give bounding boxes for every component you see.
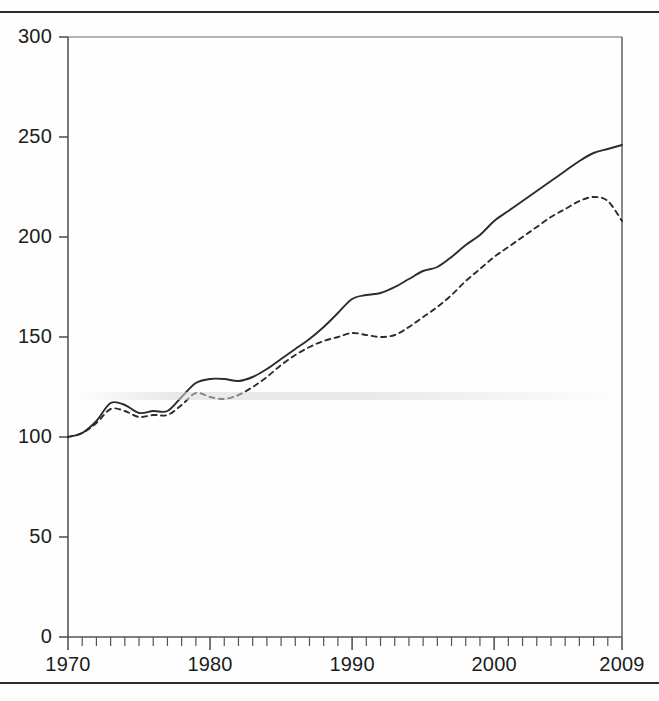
- y-axis-tick-label: 150: [0, 326, 52, 346]
- x-axis-tick-label: 1990: [312, 654, 392, 674]
- axes-group: [68, 37, 622, 637]
- bottom-horizontal-rule: [0, 682, 659, 684]
- chart-plot-area: [0, 0, 659, 701]
- data-series-solid: [68, 145, 622, 437]
- y-axis-tick-label: 0: [0, 626, 52, 646]
- y-axis-tick-label: 200: [0, 226, 52, 246]
- y-axis-ticks: [59, 37, 68, 637]
- x-axis-tick-label: 2000: [454, 654, 534, 674]
- y-axis-tick-label: 250: [0, 126, 52, 146]
- figure-container: 050100150200250300 19701980199020002009: [0, 0, 659, 701]
- x-axis-tick-label: 2009: [582, 654, 659, 674]
- x-axis-tick-label: 1980: [170, 654, 250, 674]
- y-axis-tick-label: 50: [0, 526, 52, 546]
- y-axis-tick-label: 300: [0, 26, 52, 46]
- x-axis-ticks: [68, 637, 622, 650]
- data-series-dashed: [68, 197, 622, 437]
- x-axis-tick-label: 1970: [28, 654, 108, 674]
- y-axis-tick-label: 100: [0, 426, 52, 446]
- data-series-group: [68, 145, 622, 437]
